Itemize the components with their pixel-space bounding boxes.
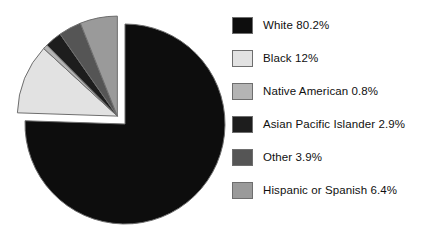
legend-swatch-native-american	[232, 83, 253, 100]
legend-item-black[interactable]: Black 12%	[232, 49, 318, 67]
legend-swatch-other	[232, 149, 253, 166]
legend-label-other: Other 3.9%	[263, 151, 322, 164]
legend-item-hispanic-or-spanish[interactable]: Hispanic or Spanish 6.4%	[232, 181, 397, 199]
legend-swatch-hispanic-or-spanish	[232, 182, 253, 199]
legend-label-hispanic-or-spanish: Hispanic or Spanish 6.4%	[263, 184, 397, 197]
legend-item-asian-pacific-islander[interactable]: Asian Pacific Islander 2.9%	[232, 115, 405, 133]
legend-item-white[interactable]: White 80.2%	[232, 16, 329, 34]
pie-slice-group	[17, 16, 225, 224]
legend-label-black: Black 12%	[263, 52, 318, 65]
legend-swatch-white	[232, 17, 253, 34]
legend-swatch-asian-pacific-islander	[232, 116, 253, 133]
chart-legend: White 80.2% Black 12% Native American 0.…	[232, 16, 427, 224]
pie-chart-plot-area	[0, 0, 232, 240]
legend-label-white: White 80.2%	[263, 19, 329, 32]
legend-label-asian-pacific-islander: Asian Pacific Islander 2.9%	[263, 118, 405, 131]
legend-label-native-american: Native American 0.8%	[263, 85, 378, 98]
pie-chart-figure: White 80.2% Black 12% Native American 0.…	[0, 0, 427, 240]
legend-item-other[interactable]: Other 3.9%	[232, 148, 322, 166]
legend-swatch-black	[232, 50, 253, 67]
pie-chart-svg	[0, 0, 232, 240]
legend-item-native-american[interactable]: Native American 0.8%	[232, 82, 378, 100]
